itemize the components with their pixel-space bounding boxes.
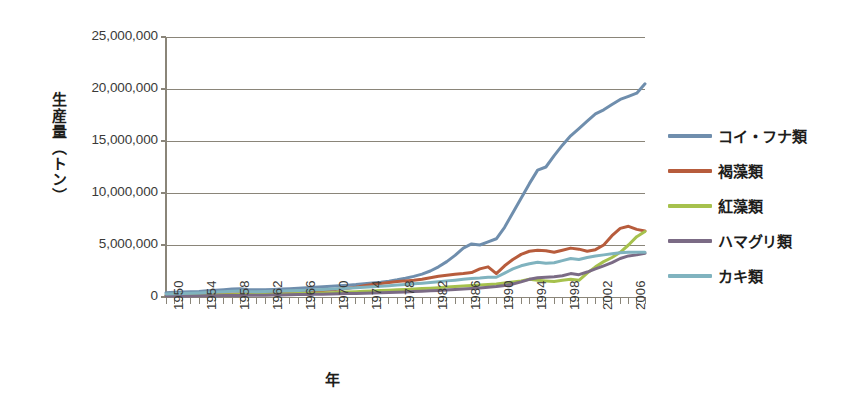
legend-label: ハマグリ類: [718, 230, 792, 251]
x-axis-tick-label: 1978: [402, 280, 417, 310]
x-axis-tick-label: 1990: [501, 280, 516, 310]
legend-item[interactable]: 褐藻類: [668, 153, 848, 188]
legend-item[interactable]: ハマグリ類: [668, 223, 848, 258]
x-axis-tick-label: 2002: [600, 280, 615, 310]
chart-legend: コイ・フナ類褐藻類紅藻類ハマグリ類カキ類: [668, 118, 848, 293]
chart-container: 生産量（トン） 05,000,00010,000,00015,000,00020…: [0, 0, 855, 408]
x-axis-tick-label: 1982: [435, 280, 450, 310]
legend-color-swatch: [668, 169, 712, 173]
legend-label: カキ類: [718, 265, 762, 286]
x-axis-tick-label: 1994: [534, 280, 549, 310]
x-axis-title: 年: [0, 368, 855, 389]
x-axis-tick-label: 1970: [336, 280, 351, 310]
x-axis-tick-label: 1974: [369, 280, 384, 310]
x-axis-tick-label: 1950: [171, 280, 186, 310]
x-axis-tick-label: 1954: [204, 280, 219, 310]
legend-color-swatch: [668, 274, 712, 278]
axis-lines: [161, 37, 166, 297]
legend-label: 褐藻類: [718, 160, 762, 181]
legend-color-swatch: [668, 239, 712, 243]
x-axis-tick-label: 2006: [633, 280, 648, 310]
legend-item[interactable]: 紅藻類: [668, 188, 848, 223]
legend-item[interactable]: コイ・フナ類: [668, 118, 848, 153]
legend-label: 紅藻類: [718, 195, 762, 216]
x-axis-tick-label: 1998: [567, 280, 582, 310]
legend-item[interactable]: カキ類: [668, 258, 848, 293]
legend-label: コイ・フナ類: [718, 125, 807, 146]
x-axis-tick-label: 1966: [303, 280, 318, 310]
x-axis-tick-label: 1962: [270, 280, 285, 310]
x-axis-tick-label: 1958: [237, 280, 252, 310]
legend-color-swatch: [668, 204, 712, 208]
series-lines: [166, 84, 645, 296]
legend-color-swatch: [668, 134, 712, 138]
x-axis-tick-label: 1986: [468, 280, 483, 310]
